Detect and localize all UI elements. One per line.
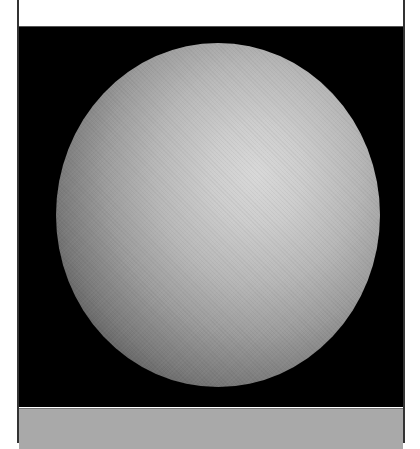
shaded-sphere — [56, 43, 380, 387]
bottom-gray-strip — [19, 408, 403, 449]
render-background — [19, 27, 403, 407]
top-white-strip — [19, 0, 403, 27]
figure-frame — [17, 0, 405, 443]
